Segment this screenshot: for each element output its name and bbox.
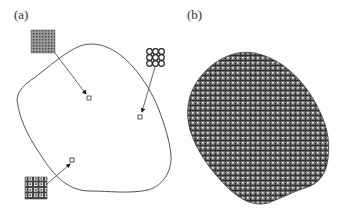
circle-grid-patch <box>147 49 165 67</box>
panel-a <box>17 30 171 199</box>
lattice-filled-region <box>188 52 329 204</box>
panel-b <box>188 52 329 204</box>
target-marker-1 <box>87 96 91 100</box>
target-marker-2 <box>138 115 142 119</box>
target-marker-3 <box>70 158 74 162</box>
arrow-line-3 <box>47 164 70 184</box>
dense-grid-patch <box>31 30 55 53</box>
arrow-line-2 <box>142 67 155 112</box>
arrow-line-1 <box>55 53 86 94</box>
mixed-grid-patch <box>25 177 47 199</box>
figure-canvas <box>0 0 342 215</box>
